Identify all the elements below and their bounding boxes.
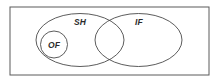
set-label-sh: SH (74, 17, 87, 27)
euler-diagram-canvas: SH IF OF (0, 0, 218, 82)
euler-diagram-container: SH IF OF (0, 0, 218, 82)
set-label-if: IF (135, 17, 144, 27)
universe-rectangle (10, 7, 209, 75)
set-label-of: OF (48, 40, 61, 50)
